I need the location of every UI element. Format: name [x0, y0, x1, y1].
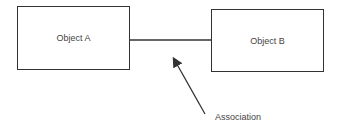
annotation-arrow — [174, 59, 205, 114]
association-annotation: Association — [215, 112, 261, 122]
connectors — [0, 0, 339, 128]
